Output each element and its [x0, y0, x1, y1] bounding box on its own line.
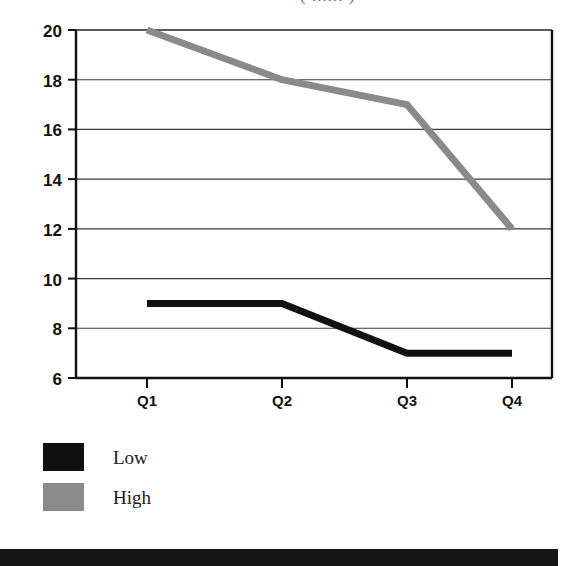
gridlines	[76, 30, 552, 328]
x-tick-label-q3: Q3	[397, 392, 417, 409]
legend-item-high: High	[43, 477, 303, 517]
y-axis-labels: 20 18 16 14 12 10 8 6	[43, 22, 62, 389]
legend-label-low: Low	[113, 448, 148, 467]
axis-frame	[76, 30, 552, 378]
legend-swatch-high-icon	[43, 483, 84, 511]
legend-item-low: Low	[43, 437, 303, 477]
y-tick-label: 20	[43, 22, 62, 41]
legend-swatch-low-icon	[43, 443, 84, 471]
page-edge-bar	[0, 549, 558, 566]
x-tick-label-q1: Q1	[137, 392, 157, 409]
y-tick-label: 16	[43, 121, 62, 140]
x-tick-label-q2: Q2	[272, 392, 292, 409]
y-tick-label: 18	[43, 72, 62, 91]
y-tick-label: 14	[43, 171, 62, 190]
y-tick-label: 6	[53, 370, 62, 389]
y-tick-label: 12	[43, 221, 62, 240]
x-axis-labels: Q1 Q2 Q3 Q4	[137, 392, 523, 409]
chart-legend: Low High	[43, 437, 303, 517]
y-tick-label: 10	[43, 271, 62, 290]
x-tick-label-q4: Q4	[502, 392, 523, 409]
x-axis-ticks	[147, 378, 512, 388]
y-tick-label: 8	[53, 320, 62, 339]
legend-label-high: High	[113, 488, 151, 507]
